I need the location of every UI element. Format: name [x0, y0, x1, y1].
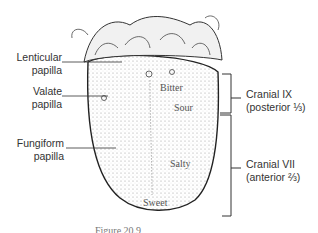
- nerve-region: (posterior ⅓): [246, 101, 306, 114]
- label-line: papilla: [6, 64, 62, 77]
- label-line: Valate: [6, 85, 62, 98]
- label-line: Fungiform: [4, 137, 64, 150]
- label-valate-papilla: Valate papilla: [6, 85, 62, 110]
- taste-sweet: Sweet: [143, 197, 167, 208]
- taste-bitter: Bitter: [160, 82, 183, 93]
- taste-salty: Salty: [170, 158, 191, 169]
- nerve-region: (anterior ⅔): [246, 171, 300, 184]
- tongue-outline: [88, 55, 219, 210]
- nerve-posterior-label: Cranial IX (posterior ⅓): [246, 88, 306, 113]
- label-line: papilla: [6, 98, 62, 111]
- nerve-name: Cranial VII: [246, 158, 300, 171]
- nerve-brackets: [220, 74, 241, 216]
- figure-caption: Figure 20.9: [95, 225, 141, 233]
- nerve-name: Cranial IX: [246, 88, 306, 101]
- taste-sour: Sour: [174, 102, 193, 113]
- label-fungiform-papilla: Fungiform papilla: [4, 137, 64, 162]
- label-line: Lenticular: [6, 51, 62, 64]
- nerve-anterior-label: Cranial VII (anterior ⅔): [246, 158, 300, 183]
- label-lenticular-papilla: Lenticular papilla: [6, 51, 62, 76]
- label-line: papilla: [4, 150, 64, 163]
